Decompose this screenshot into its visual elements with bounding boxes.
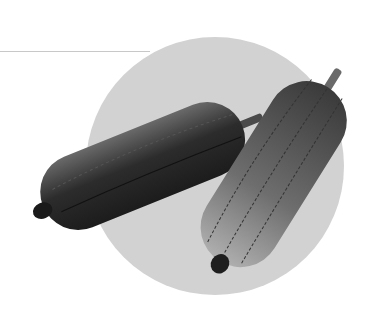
product-image: sponge gourds <box>0 0 390 310</box>
gourd-illustration <box>0 0 390 310</box>
